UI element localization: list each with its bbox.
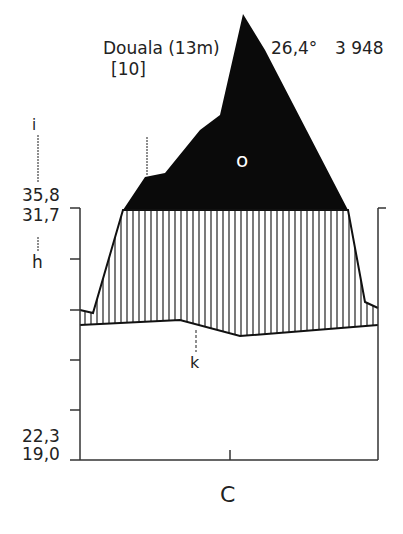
label-19-0: 19,0 [22, 446, 60, 463]
climate-diagram [0, 0, 403, 534]
mean-temp: 26,4° [271, 40, 317, 57]
label-h: h [32, 254, 43, 271]
x-label-c: C [220, 484, 235, 506]
station-title: Douala (13m) [103, 40, 220, 57]
years-note: [10] [111, 61, 146, 78]
humid-area [80, 210, 378, 336]
annual-precip: 3 948 [335, 40, 384, 57]
label-35-8: 35,8 [22, 187, 60, 204]
label-i: i [32, 118, 36, 133]
label-22-3: 22,3 [22, 428, 60, 445]
label-31-7: 31,7 [22, 207, 60, 224]
label-k: k [190, 355, 199, 371]
perhumid-label: o [236, 150, 248, 170]
